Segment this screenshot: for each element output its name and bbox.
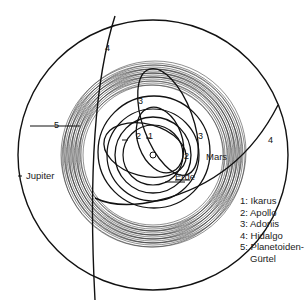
label-mars: Mars	[206, 152, 227, 162]
legend-item-planetoidenguertel: 5: Planetoiden-	[240, 241, 304, 253]
label-jupiter: Jupiter	[26, 171, 55, 181]
legend: 1: Ikarus 2: Apollo 3: Adonis 4: Hidalgo…	[240, 195, 304, 265]
marker-2-left: 2	[136, 132, 141, 141]
legend-item-adonis: 3: Adonis	[240, 218, 304, 230]
legend-item-continuation: Gürtel	[240, 253, 304, 265]
marker-4-top: 4	[105, 44, 110, 53]
marker-5: 5	[54, 121, 59, 130]
legend-item-apollo: 2: Apollo	[240, 207, 304, 219]
legend-item-ikarus: 1: Ikarus	[240, 195, 304, 207]
label-erde: Erde	[175, 172, 195, 182]
marker-1: 1	[148, 132, 153, 141]
marker-3-top: 3	[138, 97, 143, 106]
marker-3-right: 3	[198, 132, 203, 141]
legend-item-hidalgo: 4: Hidalgo	[240, 230, 304, 242]
marker-2-right: 2	[184, 152, 189, 161]
marker-4-right: 4	[268, 136, 273, 145]
